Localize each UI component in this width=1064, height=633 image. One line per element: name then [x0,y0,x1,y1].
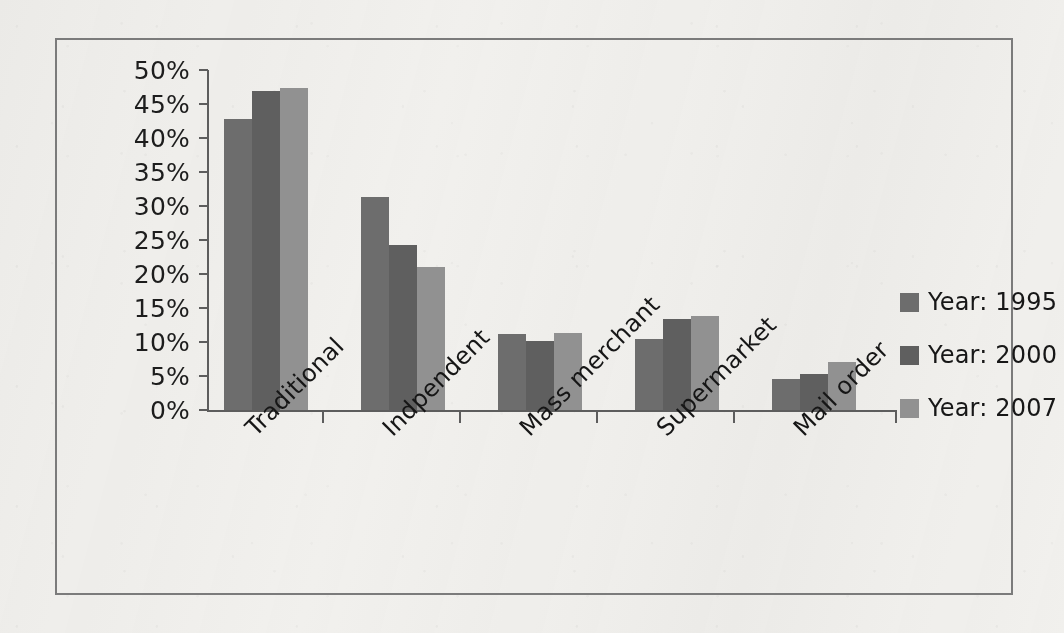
y-axis-tick [199,375,208,377]
y-axis-tick-label: 35% [134,158,190,187]
bar [252,91,280,410]
bar [498,334,526,410]
bar [361,197,389,410]
chart-frame: 0%5%10%15%20%25%30%35%40%45%50% Traditio… [55,38,1013,595]
plot-area: 0%5%10%15%20%25%30%35%40%45%50% Traditio… [212,70,897,410]
y-axis-tick [199,103,208,105]
legend-swatch-icon [900,399,919,418]
y-axis-tick-label: 10% [134,328,190,357]
legend-label: Year: 2007 [928,394,1057,422]
y-axis-tick [199,69,208,71]
x-axis-separator [596,412,598,423]
x-axis-separator [459,412,461,423]
bar [772,379,800,410]
y-axis-tick-label: 25% [134,226,190,255]
y-axis-tick-label: 15% [134,294,190,323]
x-axis-separator [733,412,735,423]
legend-label: Year: 2000 [928,341,1057,369]
bar [224,119,252,410]
legend-item[interactable]: Year: 2000 [900,341,1057,369]
y-axis-tick [199,341,208,343]
y-axis-tick-label: 30% [134,192,190,221]
x-axis-separator [322,412,324,423]
y-axis-tick [199,273,208,275]
legend-swatch-icon [900,346,919,365]
y-axis-tick-label: 5% [150,362,190,391]
y-axis-tick-label: 45% [134,90,190,119]
chart-legend: Year: 1995Year: 2000Year: 2007 [900,288,1057,422]
legend-swatch-icon [900,293,919,312]
y-axis-tick-label: 20% [134,260,190,289]
y-axis-tick-label: 40% [134,124,190,153]
y-axis-tick-label: 50% [134,56,190,85]
y-axis-tick [199,239,208,241]
bar-group [224,88,308,410]
y-axis-tick [199,307,208,309]
legend-item[interactable]: Year: 1995 [900,288,1057,316]
y-axis-tick [199,205,208,207]
bar [635,339,663,410]
legend-item[interactable]: Year: 2007 [900,394,1057,422]
x-axis-separator [895,412,897,423]
y-axis-tick-label: 0% [150,396,190,425]
legend-label: Year: 1995 [928,288,1057,316]
y-axis-tick [199,409,208,411]
y-axis-tick [199,171,208,173]
y-axis-tick [199,137,208,139]
